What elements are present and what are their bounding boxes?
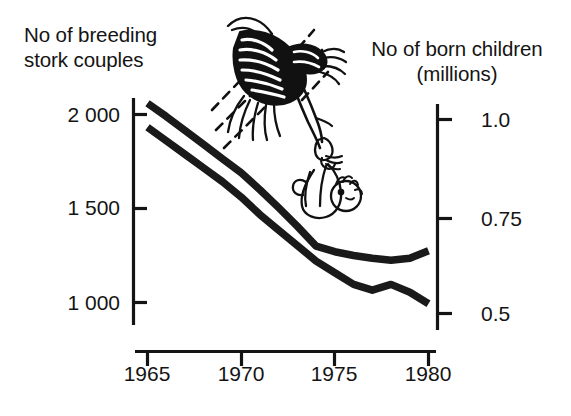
right-axis-spine-group [437, 104, 452, 330]
left-axis-spine-group [133, 98, 147, 325]
baby-bundle [293, 158, 362, 218]
x-axis-spine-group [135, 351, 436, 366]
stork-carrying-baby-illustration [210, 6, 370, 221]
stork-body [228, 18, 346, 169]
stork-births-chart-figure: No of breedingstork couples No of born c… [0, 0, 571, 416]
